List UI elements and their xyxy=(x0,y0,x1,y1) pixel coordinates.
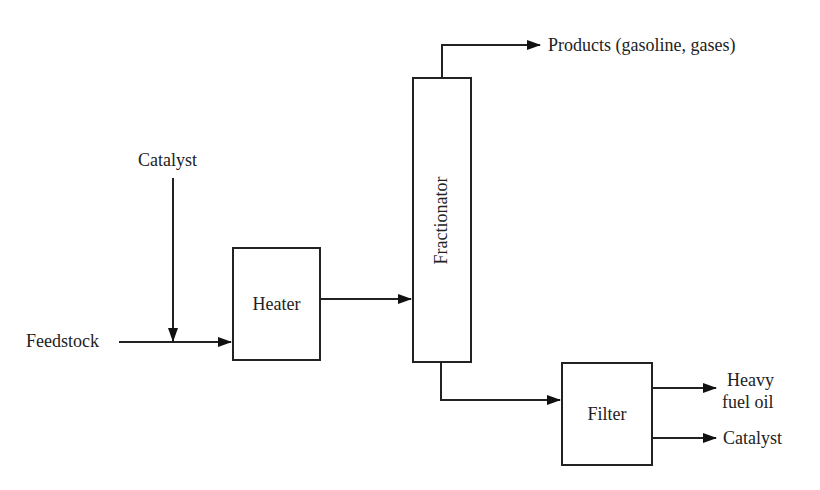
catalyst-input-label: Catalyst xyxy=(138,150,197,170)
heavy-fuel-oil-label-line1: Heavy xyxy=(727,370,774,390)
fractionator-label: Fractionator xyxy=(432,176,453,264)
heater-node: Heater xyxy=(232,247,321,361)
feedstock-label: Feedstock xyxy=(26,331,99,351)
products-label: Products (gasoline, gases) xyxy=(548,35,735,55)
filter-node: Filter xyxy=(561,362,653,466)
flow-arrows xyxy=(0,0,820,490)
fractionator-node: Fractionator xyxy=(412,77,472,363)
catalyst-output-label: Catalyst xyxy=(723,428,782,448)
heater-label: Heater xyxy=(253,294,301,315)
heavy-fuel-oil-label-line2: fuel oil xyxy=(722,392,774,412)
filter-label: Filter xyxy=(588,404,627,425)
